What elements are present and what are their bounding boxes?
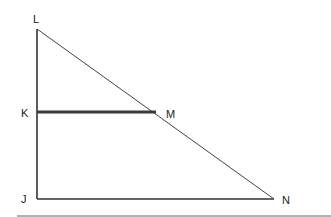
label-J: J bbox=[21, 193, 27, 205]
label-N: N bbox=[282, 194, 290, 206]
label-K: K bbox=[21, 107, 29, 119]
segment-LN bbox=[37, 29, 274, 199]
label-L: L bbox=[33, 13, 39, 25]
label-M: M bbox=[166, 108, 175, 120]
triangle-diagram: L K M J N bbox=[0, 0, 331, 217]
